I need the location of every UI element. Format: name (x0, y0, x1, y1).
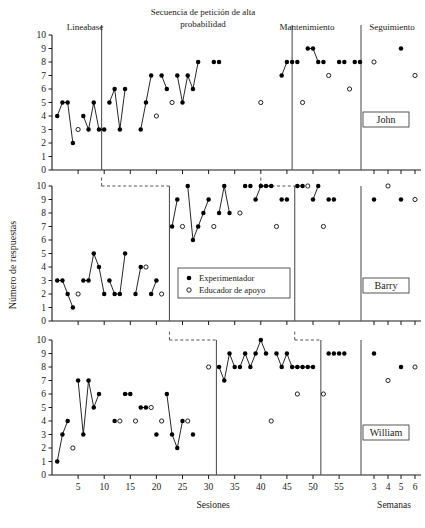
y-tick-label: 7 (41, 71, 46, 81)
data-point-experimentador (295, 60, 300, 65)
followup-point-educador (413, 73, 417, 77)
phase-label: probabilidad (180, 19, 226, 29)
data-point-experimentador (128, 392, 133, 397)
data-point-educador (170, 100, 174, 104)
data-point-experimentador (118, 127, 123, 132)
data-point-experimentador (92, 405, 97, 410)
data-line (57, 103, 73, 144)
participant-name-label: Barry (375, 280, 398, 291)
data-point-experimentador (102, 127, 107, 132)
data-point-experimentador (243, 184, 248, 189)
data-point-experimentador (279, 365, 284, 370)
data-point-experimentador (300, 184, 305, 189)
legend-label-experimentador: Experimentador (199, 273, 254, 283)
data-point-educador (149, 405, 153, 409)
y-tick-label: 8 (41, 208, 46, 218)
data-point-experimentador (332, 197, 337, 202)
data-point-experimentador (326, 197, 331, 202)
data-point-experimentador (316, 60, 321, 65)
phase-label: Lineabase (67, 22, 103, 32)
data-point-experimentador (123, 87, 128, 92)
legend-marker-filled (187, 276, 192, 281)
data-point-experimentador (358, 60, 363, 65)
y-tick-label: 1 (41, 457, 46, 467)
data-point-experimentador (107, 278, 112, 283)
data-point-experimentador (55, 114, 60, 119)
data-point-educador (71, 446, 75, 450)
followup-point-experimentador (372, 351, 377, 356)
panel-john: 012345678910John (37, 25, 422, 175)
data-point-experimentador (243, 351, 248, 356)
data-point-experimentador (264, 184, 269, 189)
y-tick-label: 1 (41, 303, 46, 313)
x-tick-week-label: 5 (399, 482, 404, 492)
data-point-experimentador (65, 100, 70, 105)
data-point-experimentador (222, 184, 227, 189)
data-point-experimentador (217, 60, 222, 65)
data-point-experimentador (191, 87, 196, 92)
data-point-educador (118, 419, 122, 423)
data-point-experimentador (81, 278, 86, 283)
data-point-experimentador (259, 184, 264, 189)
data-point-experimentador (149, 73, 154, 78)
legend-marker-open (187, 288, 191, 292)
data-point-experimentador (326, 351, 331, 356)
y-tick-label: 7 (41, 222, 46, 232)
data-point-educador (133, 419, 137, 423)
data-point-experimentador (321, 60, 326, 65)
data-point-experimentador (185, 184, 190, 189)
data-point-experimentador (165, 87, 170, 92)
y-tick-label: 9 (41, 195, 46, 205)
data-point-experimentador (107, 100, 112, 105)
x-tick-week-label: 4 (386, 482, 391, 492)
y-tick-label: 1 (41, 152, 46, 162)
chart-canvas: 012345678910John012345678910Barry0123456… (0, 0, 425, 528)
data-point-experimentador (342, 60, 347, 65)
data-point-experimentador (149, 292, 154, 297)
legend: ExperimentadorEducador de apoyo (178, 268, 290, 298)
data-line (219, 354, 235, 381)
y-tick-label: 10 (37, 30, 47, 40)
data-point-experimentador (133, 292, 138, 297)
data-point-experimentador (86, 278, 91, 283)
data-point-experimentador (353, 60, 358, 65)
y-tick-label: 5 (41, 249, 46, 259)
data-point-educador (238, 211, 242, 215)
data-point-experimentador (112, 419, 117, 424)
data-point-educador (321, 392, 325, 396)
data-point-experimentador (180, 419, 185, 424)
data-point-experimentador (112, 292, 117, 297)
data-line (256, 186, 272, 200)
data-point-experimentador (217, 365, 222, 370)
x-tick-label: 20 (152, 482, 162, 492)
data-point-experimentador (311, 365, 316, 370)
data-point-experimentador (201, 211, 206, 216)
data-point-experimentador (248, 365, 253, 370)
data-point-experimentador (311, 197, 316, 202)
data-point-experimentador (191, 432, 196, 437)
followup-point-educador (386, 378, 390, 382)
y-tick-label: 10 (37, 335, 47, 345)
data-point-educador (295, 392, 299, 396)
data-line (172, 200, 177, 227)
data-point-experimentador (112, 87, 117, 92)
data-point-experimentador (227, 211, 232, 216)
data-point-experimentador (154, 278, 159, 283)
data-point-experimentador (285, 197, 290, 202)
data-point-experimentador (138, 265, 143, 270)
x-tick-label: 55 (334, 482, 344, 492)
x-tick-label: 25 (178, 482, 188, 492)
data-point-experimentador (92, 251, 97, 256)
data-point-educador (306, 184, 310, 188)
data-point-experimentador (342, 351, 347, 356)
data-point-experimentador (290, 365, 295, 370)
data-point-experimentador (97, 392, 102, 397)
data-point-experimentador (97, 265, 102, 270)
y-tick-label: 4 (41, 262, 46, 272)
data-point-educador (76, 292, 80, 296)
data-point-experimentador (175, 73, 180, 78)
data-point-educador (300, 100, 304, 104)
participant-name-label: John (377, 114, 396, 125)
data-point-experimentador (279, 73, 284, 78)
y-tick-label: 10 (37, 181, 47, 191)
